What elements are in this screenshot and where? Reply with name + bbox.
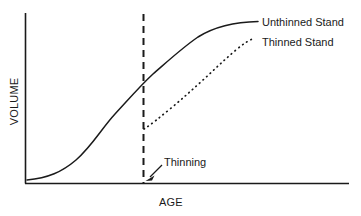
curve-thinned-stand <box>144 38 255 129</box>
legend-label-unthinned-stand: Unthinned Stand <box>262 17 344 28</box>
chart-plot-area <box>0 0 361 216</box>
volume-age-growth-chart: VOLUME AGE Unthinned Stand Thinned Stand… <box>0 0 361 216</box>
x-axis-label: AGE <box>159 197 183 208</box>
annotation-label-thinning: Thinning <box>164 157 206 168</box>
y-axis-label: VOLUME <box>9 72 20 132</box>
legend-label-thinned-stand: Thinned Stand <box>262 37 334 48</box>
thinning-arrow-shaft <box>150 165 162 177</box>
